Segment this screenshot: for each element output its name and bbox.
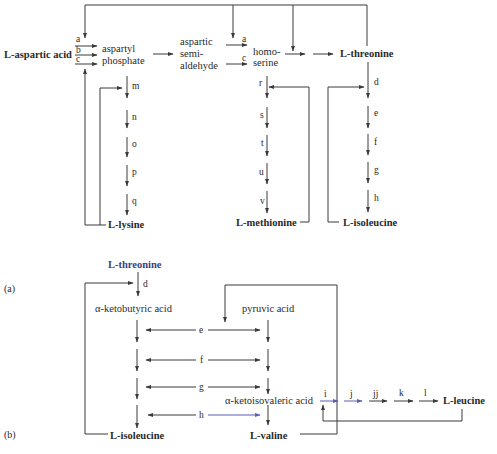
node-isoleucine-b: L-isoleucine	[110, 430, 165, 441]
node-aspartyl-phosphate-l2: phosphate	[102, 55, 145, 66]
step-n: n	[132, 112, 137, 122]
step-r: r	[259, 78, 263, 88]
step-f-b: f	[200, 355, 204, 365]
step-c1: c	[76, 54, 80, 64]
node-isoleucine: L-isoleucine	[343, 217, 398, 228]
step-s: s	[260, 110, 264, 120]
node-semialdehyde-l2: semi-	[180, 48, 204, 59]
step-o: o	[132, 139, 137, 149]
node-aspartic-acid: L-aspartic acid	[4, 49, 72, 60]
lysine-feedback-m	[100, 88, 122, 225]
node-aspartyl-phosphate-l1: aspartyl	[102, 43, 135, 54]
node-ketobutyric: α-ketobutyric acid	[95, 303, 173, 314]
step-j: j	[349, 389, 353, 399]
step-l: l	[424, 388, 427, 398]
step-g-b: g	[199, 382, 204, 392]
step-t: t	[261, 138, 264, 148]
step-a1: a	[76, 34, 81, 44]
node-valine: L-valine	[250, 430, 288, 441]
step-u: u	[259, 167, 264, 177]
node-pyruvic: pyruvic acid	[242, 303, 295, 314]
node-homoserine-l1: homo-	[253, 46, 281, 57]
threonine-feedback-a	[85, 5, 367, 46]
step-a2: a	[242, 34, 247, 44]
node-ketoisovaleric: α-ketoisovaleric acid	[225, 395, 314, 406]
node-lysine: L-lysine	[108, 219, 145, 230]
step-c2: c	[242, 53, 246, 63]
node-methionine: L-methionine	[236, 217, 297, 228]
step-e-b: e	[199, 325, 203, 335]
amino-acid-biosynthesis-diagram: (a) L-aspartic acid a b c aspartyl phosp…	[0, 0, 497, 454]
panel-b: (b) L-threonine d α-ketobutyric acid pyr…	[4, 259, 485, 441]
panel-a: (a) L-aspartic acid a b c aspartyl phosp…	[4, 5, 398, 295]
panel-b-label: (b)	[4, 429, 16, 441]
lysine-feedback-c	[85, 69, 106, 225]
step-v: v	[260, 196, 265, 206]
node-semialdehyde-l1: aspartic	[180, 36, 213, 47]
node-threonine-b: L-threonine	[108, 259, 162, 270]
step-m: m	[132, 81, 140, 91]
step-f: f	[374, 137, 378, 147]
node-threonine: L-threonine	[340, 48, 394, 59]
step-i: i	[324, 389, 327, 399]
step-q: q	[132, 196, 137, 206]
step-g: g	[374, 165, 379, 175]
step-h-b: h	[199, 410, 204, 420]
isoleucine-feedback-d	[328, 87, 364, 222]
panel-a-label: (a)	[4, 283, 15, 295]
node-semialdehyde-l3: aldehyde	[180, 60, 218, 71]
leucine-feedback-i	[323, 405, 462, 421]
methionine-feedback-r	[269, 87, 309, 222]
step-d-b: d	[143, 279, 148, 289]
step-h: h	[374, 193, 379, 203]
step-jj: jj	[372, 389, 378, 399]
node-homoserine-l2: serine	[253, 57, 278, 68]
step-p: p	[132, 167, 137, 177]
step-e: e	[374, 108, 378, 118]
step-k: k	[399, 388, 404, 398]
node-leucine: L-leucine	[443, 395, 485, 406]
step-d: d	[374, 77, 379, 87]
